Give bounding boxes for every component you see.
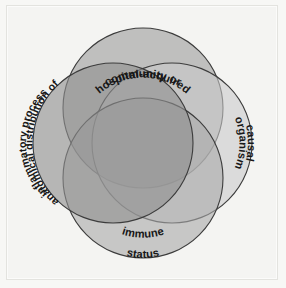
venn-circles-group — [33, 28, 252, 258]
venn-diagram-figure: community or hospital-acquired anatomica… — [0, 0, 286, 288]
venn-label-bottom-line2: status — [126, 246, 160, 260]
venn-diagram-canvas: community or hospital-acquired anatomica… — [0, 0, 286, 288]
svg-text:status: status — [126, 246, 160, 260]
